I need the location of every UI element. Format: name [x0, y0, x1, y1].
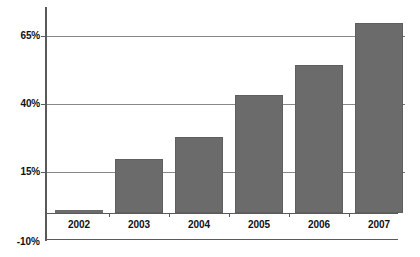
zero-baseline: [46, 213, 398, 214]
bar-2003[interactable]: [115, 159, 163, 213]
x-tick-mark-2: [169, 213, 170, 217]
x-axis-label-2005: 2005: [235, 219, 283, 230]
bar-2007[interactable]: [355, 23, 403, 213]
y-axis-label-minus10: -10%: [0, 236, 40, 247]
x-axis-line: [45, 239, 398, 240]
bar-2002[interactable]: [55, 210, 103, 213]
gridline-65: [46, 36, 398, 37]
x-tick-mark-3: [229, 213, 230, 217]
y-axis-line: [45, 7, 47, 241]
x-tick-mark-5: [349, 213, 350, 217]
bar-2004[interactable]: [175, 137, 223, 213]
y-axis-label-40: 40%: [2, 98, 40, 109]
y-axis-label-65: 65%: [2, 30, 40, 41]
gridline-40: [46, 104, 398, 105]
x-tick-mark-1: [109, 213, 110, 217]
bar-2006[interactable]: [295, 65, 343, 213]
bar-chart: 65% 40% 15% -10% 2002 2003 2004 2005 200…: [0, 0, 420, 257]
x-axis-label-2002: 2002: [55, 219, 103, 230]
x-tick-mark-4: [289, 213, 290, 217]
y-tick-mark-15: [41, 172, 45, 173]
x-axis-label-2003: 2003: [115, 219, 163, 230]
x-axis-label-2004: 2004: [175, 219, 223, 230]
y-tick-mark-65: [41, 36, 45, 37]
bar-2005[interactable]: [235, 95, 283, 213]
x-axis-label-2006: 2006: [295, 219, 343, 230]
y-tick-mark-40: [41, 104, 45, 105]
y-axis-label-15: 15%: [2, 166, 40, 177]
x-axis-label-2007: 2007: [355, 219, 403, 230]
